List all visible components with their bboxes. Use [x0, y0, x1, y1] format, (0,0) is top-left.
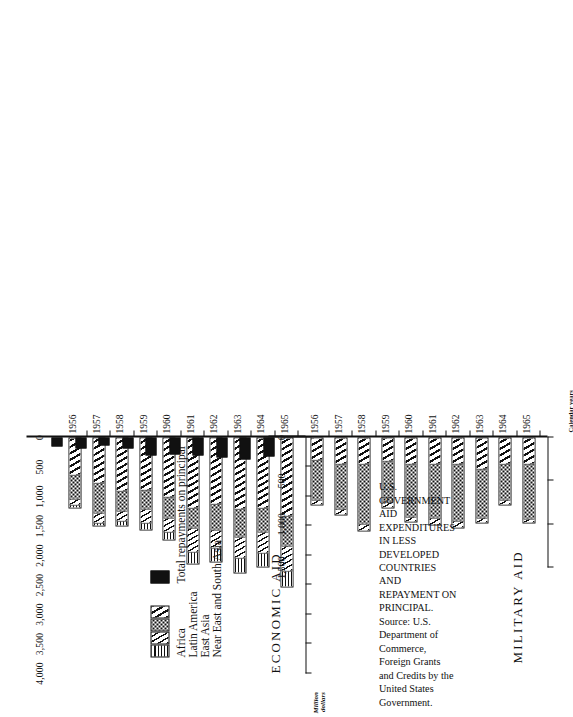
year-tick	[351, 430, 352, 436]
legend-swatch-latin-america	[150, 631, 169, 644]
value-tick-label: 3,000	[34, 603, 44, 625]
value-tick-label: 3,500	[34, 632, 44, 654]
value-tick-label: 2,500	[34, 573, 44, 595]
value-tick	[547, 479, 553, 480]
year-tick	[133, 430, 134, 436]
bar-segment	[257, 552, 268, 566]
year-label-1958: 1958	[356, 414, 366, 433]
value-tick-label: 500	[34, 459, 44, 474]
bar-segment	[499, 438, 510, 463]
bar-segment	[358, 463, 369, 522]
value-tick-label: 500	[276, 473, 286, 488]
stacked-bar	[115, 437, 128, 526]
legend-label: East Asia	[198, 539, 210, 657]
bar-segment	[116, 510, 127, 520]
year-label-1964: 1964	[255, 414, 265, 433]
bar-segment	[452, 438, 463, 463]
legend-swatch-near-east-and-south-asia	[150, 605, 169, 618]
legend-label-total-repayments: Total repayments on principal	[174, 446, 186, 583]
stacked-bar	[334, 437, 347, 515]
repayment-bar	[216, 437, 227, 457]
legend-label: Near East and South Asia	[210, 539, 222, 657]
bar-segment	[93, 522, 104, 525]
year-tick	[156, 430, 157, 436]
year-tick	[328, 430, 329, 436]
bar-segment	[499, 499, 510, 505]
bar-segment	[476, 468, 487, 517]
stacked-bar	[522, 437, 535, 523]
repayment-bar	[239, 437, 250, 459]
value-tick-label: 0	[276, 435, 286, 440]
bar-segment	[523, 518, 534, 522]
bar-segment	[311, 459, 322, 499]
bar-segment	[311, 499, 322, 504]
stacked-bar	[475, 437, 488, 523]
bar-segment	[523, 438, 534, 463]
bar-segment	[210, 503, 221, 529]
bar-segment	[93, 482, 104, 513]
repayment-bar	[75, 437, 86, 448]
year-label-1956: 1956	[67, 414, 77, 433]
value-tick-label: 0	[34, 435, 44, 440]
bar-segment	[257, 507, 268, 531]
repayment-bar	[98, 437, 109, 445]
bar-segment	[93, 512, 104, 521]
year-label-1956: 1956	[309, 414, 319, 433]
value-tick-label: 1,000	[34, 485, 44, 507]
bar-segment	[429, 438, 440, 463]
bar-segment	[234, 536, 245, 557]
year-label-1962: 1962	[450, 414, 460, 433]
bar-segment	[382, 438, 393, 460]
year-label-1957: 1957	[91, 414, 101, 433]
bar-segment	[311, 438, 322, 459]
repayment-bar	[122, 437, 133, 448]
bar-segment	[140, 489, 151, 508]
year-label-1963: 1963	[232, 414, 242, 433]
year-label-1960: 1960	[403, 414, 413, 433]
year-label-1959: 1959	[138, 414, 148, 433]
panel-title-military: MILITARY AID	[509, 550, 525, 663]
legend-swatch-total-repayments	[150, 570, 169, 583]
year-tick	[180, 430, 181, 436]
stacked-bar	[357, 437, 370, 531]
legend-swatch-east-asia	[150, 618, 169, 631]
bar-segment	[476, 517, 487, 522]
year-tick	[109, 430, 110, 436]
bar-segment	[358, 523, 369, 530]
bar-segment	[257, 531, 268, 552]
bar-segment	[335, 438, 346, 463]
year-label-1964: 1964	[497, 414, 507, 433]
bar-segment	[163, 517, 174, 531]
stacked-bar	[310, 437, 323, 505]
year-label-1960: 1960	[161, 414, 171, 433]
repayment-bar	[192, 437, 203, 455]
bar-segment	[163, 496, 174, 517]
bar-segment	[234, 508, 245, 536]
bar-segment	[476, 438, 487, 468]
bar-segment	[69, 498, 80, 504]
year-tick	[422, 430, 423, 436]
value-tick-label: 4,000	[34, 662, 44, 684]
year-label-1961: 1961	[427, 414, 437, 433]
value-tick-label: 1,500	[34, 514, 44, 536]
year-tick	[516, 430, 517, 436]
value-tick-label: 2,000	[34, 544, 44, 566]
value-tick	[547, 566, 553, 567]
bar-segment	[405, 438, 416, 463]
value-tick-label: 1,500	[276, 556, 286, 578]
year-label-1957: 1957	[333, 414, 343, 433]
year-label-1962: 1962	[208, 414, 218, 433]
bar-segment	[358, 438, 369, 463]
bar-segment	[335, 463, 346, 508]
bar-segment	[140, 508, 151, 522]
value-tick-label: 1,000	[276, 512, 286, 534]
year-tick	[250, 430, 251, 436]
year-tick	[227, 430, 228, 436]
bar-segment	[234, 557, 245, 573]
year-tick	[203, 430, 204, 436]
value-tick	[547, 436, 553, 437]
year-tick	[398, 430, 399, 436]
bar-segment	[140, 522, 151, 528]
year-label-1965: 1965	[521, 414, 531, 433]
